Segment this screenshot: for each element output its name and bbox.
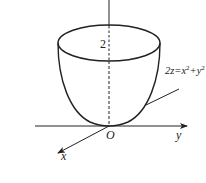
bowl-right-side <box>109 43 160 126</box>
equation-label: 2z=x2+y2 <box>165 64 205 76</box>
equation-prefix: 2z=x <box>165 65 186 76</box>
equation-plus: +y <box>190 65 202 76</box>
x-axis-back <box>146 89 179 105</box>
rim-ellipse <box>58 25 160 61</box>
paraboloid-diagram: 2 O y x 2z=x2+y2 <box>0 0 206 183</box>
y-axis-label: y <box>175 128 182 142</box>
bowl-left-side <box>58 43 109 126</box>
equation-sup2: 2 <box>201 64 205 72</box>
height-label: 2 <box>100 37 106 51</box>
origin-label: O <box>106 128 115 142</box>
x-axis-label: x <box>60 149 67 163</box>
